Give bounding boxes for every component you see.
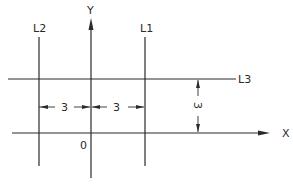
y-axis-arrow-icon <box>89 18 94 30</box>
arrow-up-icon <box>196 80 200 88</box>
x-axis-label: X <box>282 127 290 140</box>
x-axis: X <box>12 127 290 140</box>
line-l1-label: L1 <box>140 22 153 35</box>
coordinate-diagram: L2 L1 L3 Y X 0 3 3 <box>0 0 293 188</box>
dimension-value: 3 <box>113 101 120 114</box>
dimension-value: 3 <box>61 101 68 114</box>
arrow-down-icon <box>196 124 200 132</box>
line-l3: L3 <box>8 73 251 86</box>
dimension-l2-to-y: 3 <box>39 101 90 114</box>
origin-label: 0 <box>80 139 87 152</box>
y-axis: Y <box>86 4 94 178</box>
arrow-left-icon <box>92 105 100 109</box>
arrow-right-icon <box>136 105 144 109</box>
dimension-x-to-l3: 3 <box>191 80 204 132</box>
x-axis-arrow-icon <box>258 131 270 136</box>
dimension-y-to-l1: 3 <box>92 101 144 114</box>
line-l3-label: L3 <box>238 73 251 86</box>
y-axis-label: Y <box>86 4 94 17</box>
line-l2-label: L2 <box>33 22 46 35</box>
arrow-left-icon <box>40 105 48 109</box>
line-l1: L1 <box>140 22 153 166</box>
arrow-right-icon <box>82 105 90 109</box>
line-l2: L2 <box>33 22 46 166</box>
dimension-value: 3 <box>191 102 204 109</box>
